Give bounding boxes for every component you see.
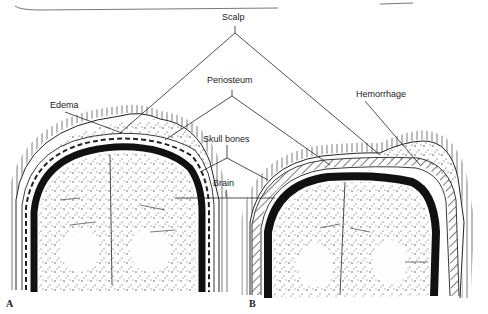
diagram-canvas [0,0,488,314]
top-rule-right [380,3,413,4]
skull-a [12,109,225,292]
label-skull-bones: Skull bones [203,134,250,144]
label-periosteum: Periosteum [207,75,253,85]
skull-cross-section-diagram: Scalp Periosteum Skull bones Brain Edema… [0,0,488,314]
label-edema: Edema [50,100,79,110]
skull-b [246,135,470,298]
label-scalp: Scalp [222,12,245,22]
panel-label-a: A [6,298,13,309]
label-brain: Brain [213,178,234,188]
top-rule [15,6,278,10]
label-hemorrhage: Hemorrhage [356,89,406,99]
panel-label-b: B [249,298,256,309]
